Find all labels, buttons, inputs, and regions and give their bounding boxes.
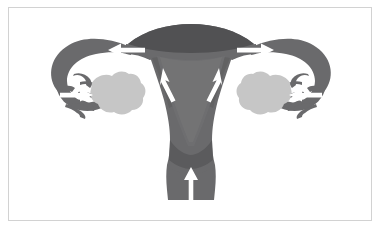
anatomy-svg: Female reproductive tract flow diagram A…: [0, 0, 382, 230]
reproductive-system-figure: Female reproductive tract flow diagram A…: [0, 0, 382, 230]
diagram-page: Female reproductive tract flow diagram A…: [0, 0, 382, 230]
